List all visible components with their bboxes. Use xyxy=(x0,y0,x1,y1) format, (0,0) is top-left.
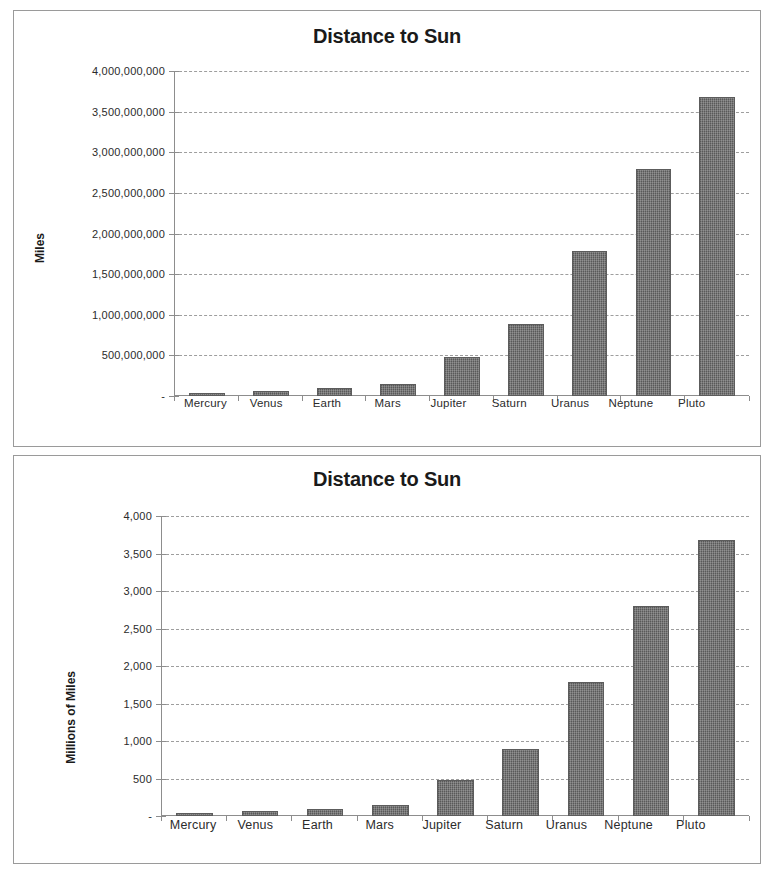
chart-top-plot-area: 4,000,000,0003,500,000,0003,000,000,0002… xyxy=(174,71,749,396)
x-tick-label: Mercury xyxy=(175,397,236,409)
y-tick-label: - xyxy=(148,810,152,822)
y-tick-label: 1,500 xyxy=(123,698,152,710)
bar[interactable] xyxy=(317,388,353,396)
chart-bottom-bars xyxy=(162,516,749,816)
bar-slot xyxy=(553,516,618,816)
x-tick-label: Pluto xyxy=(661,397,722,409)
bar[interactable] xyxy=(176,813,213,816)
bar-slot xyxy=(227,516,292,816)
x-tick-label: Neptune xyxy=(598,818,660,832)
bar[interactable] xyxy=(502,749,539,816)
x-tick-label: Neptune xyxy=(600,397,661,409)
y-tick-label: 1,000,000,000 xyxy=(92,309,165,321)
bar[interactable] xyxy=(242,811,279,816)
x-tick-label: Mercury xyxy=(162,818,224,832)
bar-slot xyxy=(358,516,423,816)
x-tick-mark xyxy=(749,816,750,821)
bar[interactable] xyxy=(636,169,672,396)
x-tick-label: Pluto xyxy=(660,818,722,832)
y-tick-label: 2,500 xyxy=(123,623,152,635)
chart-bottom-plot-area: 4,0003,5003,0002,5002,0001,5001,000500- xyxy=(161,516,749,816)
bar[interactable] xyxy=(633,606,670,816)
bar[interactable] xyxy=(372,805,409,816)
bar[interactable] xyxy=(699,97,735,396)
y-tick-label: 3,000 xyxy=(123,585,152,597)
y-tick-label: 1,500,000,000 xyxy=(92,268,165,280)
bar-slot xyxy=(423,516,488,816)
bar[interactable] xyxy=(698,540,735,816)
y-tick-label: 2,500,000,000 xyxy=(92,187,165,199)
x-tick-mark xyxy=(749,396,750,401)
bar-slot xyxy=(494,71,558,396)
bar-slot xyxy=(558,71,622,396)
x-tick-label: Jupiter xyxy=(418,397,479,409)
x-tick-label: Jupiter xyxy=(411,818,473,832)
x-tick-label: Mars xyxy=(349,818,411,832)
bar[interactable] xyxy=(568,682,605,816)
y-tick-label: 500 xyxy=(133,773,152,785)
chart-top-title: Distance to Sun xyxy=(14,25,760,48)
bar-slot xyxy=(430,71,494,396)
x-tick-label: Uranus xyxy=(535,818,597,832)
bar-slot xyxy=(619,516,684,816)
y-tick-label: 4,000,000,000 xyxy=(92,65,165,77)
x-tick-label: Mars xyxy=(357,397,418,409)
bar[interactable] xyxy=(189,393,225,396)
page-root: Distance to Sun Miles 4,000,000,0003,500… xyxy=(0,0,773,878)
bar[interactable] xyxy=(444,357,480,396)
chart-bottom: Distance to Sun Millions of Miles 4,0003… xyxy=(13,455,761,864)
bar-slot xyxy=(366,71,430,396)
x-tick-label: Venus xyxy=(224,818,286,832)
y-tick-label: 4,000 xyxy=(123,510,152,522)
bar-slot xyxy=(175,71,239,396)
bar[interactable] xyxy=(508,324,544,396)
y-tick-label: 2,000,000,000 xyxy=(92,228,165,240)
chart-top-bars xyxy=(175,71,749,396)
y-tick-label: 500,000,000 xyxy=(102,349,165,361)
y-tick-label: 2,000 xyxy=(123,660,152,672)
bar-slot xyxy=(292,516,357,816)
bar[interactable] xyxy=(380,384,416,396)
bar[interactable] xyxy=(572,251,608,396)
x-tick-label: Uranus xyxy=(540,397,601,409)
chart-bottom-x-tick-labels: MercuryVenusEarthMarsJupiterSaturnUranus… xyxy=(162,818,722,832)
x-tick-label: Saturn xyxy=(473,818,535,832)
x-tick-label: Earth xyxy=(286,818,348,832)
chart-top-y-axis-title: Miles xyxy=(33,233,47,263)
bar-slot xyxy=(488,516,553,816)
chart-bottom-y-axis-title: Millions of Miles xyxy=(64,671,78,764)
y-tick-label: 1,000 xyxy=(123,735,152,747)
y-tick-label: - xyxy=(161,390,165,402)
x-tick-label: Saturn xyxy=(479,397,540,409)
bar-slot xyxy=(303,71,367,396)
y-tick-label: 3,500,000,000 xyxy=(92,106,165,118)
x-tick-label: Earth xyxy=(297,397,358,409)
bar-slot xyxy=(162,516,227,816)
chart-top-x-tick-labels: MercuryVenusEarthMarsJupiterSaturnUranus… xyxy=(175,397,722,409)
bar-slot xyxy=(684,516,749,816)
y-tick-label: 3,000,000,000 xyxy=(92,146,165,158)
bar-slot xyxy=(621,71,685,396)
y-tick-label: 3,500 xyxy=(123,548,152,560)
bar[interactable] xyxy=(253,391,289,396)
x-tick-label: Venus xyxy=(236,397,297,409)
chart-bottom-title: Distance to Sun xyxy=(14,468,760,491)
bar-slot xyxy=(239,71,303,396)
bar-slot xyxy=(685,71,749,396)
chart-top: Distance to Sun Miles 4,000,000,0003,500… xyxy=(13,10,761,447)
bar[interactable] xyxy=(307,809,344,816)
bar[interactable] xyxy=(437,780,474,816)
